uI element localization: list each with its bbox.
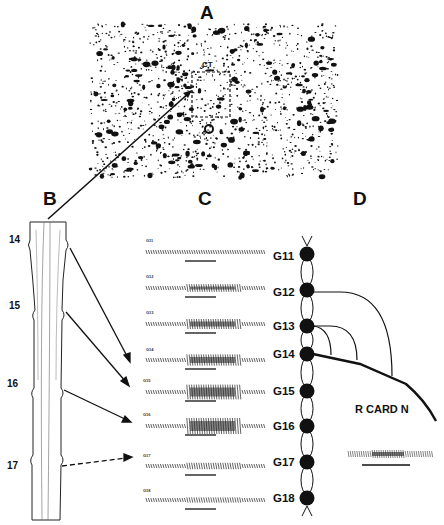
trace-label: G15 (143, 378, 151, 383)
ganglion-label: G15 (273, 385, 295, 397)
ganglion-label: G12 (273, 286, 295, 298)
arrows-b-to-c (62, 248, 132, 466)
segment-label: 17 (7, 460, 18, 471)
panel-label-d: D (353, 188, 367, 210)
micrograph-panel-a (88, 22, 340, 180)
trace-label: G13 (146, 310, 154, 315)
panel-label-b: B (43, 188, 57, 210)
nerve-label: R CARD N (355, 403, 409, 415)
ganglion-label: G14 (273, 348, 295, 360)
panel-label-a: A (200, 2, 214, 24)
ganglion-label: G17 (273, 456, 295, 468)
segment-label: 16 (7, 378, 18, 389)
recording-traces-panel-c (146, 250, 265, 509)
trace-label: G16 (143, 412, 151, 417)
ganglion-chain-panel-d (300, 236, 437, 516)
ganglion-label: G13 (273, 320, 295, 332)
trace-label: G17 (143, 453, 151, 458)
segment-label: 14 (9, 234, 20, 245)
segment-label: 15 (9, 300, 20, 311)
trace-label: G18 (143, 488, 151, 493)
trace-label: G12 (146, 274, 154, 279)
figure-canvas (0, 0, 444, 525)
ct-region-label: CT (202, 60, 213, 69)
ganglion-label: G16 (273, 420, 295, 432)
ganglion-label: G18 (273, 492, 295, 504)
nerve-cord-panel-b (29, 222, 69, 520)
trace-label: G14 (146, 347, 154, 352)
trace-label: G11 (146, 238, 153, 243)
ganglion-label: G11 (273, 250, 294, 262)
panel-label-c: C (198, 188, 212, 210)
